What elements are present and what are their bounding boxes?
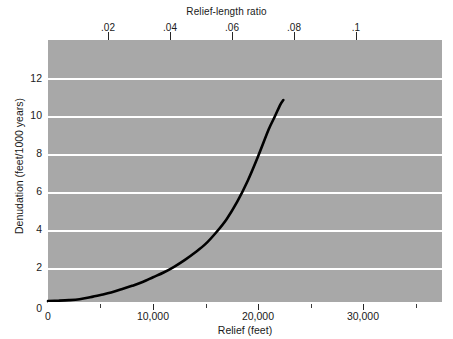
top-tick-0	[108, 32, 109, 40]
plot-area	[48, 40, 442, 303]
x-tick-label-20000: 20,000	[242, 310, 274, 322]
bottom-tick-major-10000	[153, 303, 154, 310]
top-tick-4	[356, 32, 357, 40]
y-tick-label-4: 4	[22, 223, 42, 235]
y-tick-label-12: 12	[22, 72, 42, 84]
x-axis-title: Relief (feet)	[48, 324, 442, 336]
y-tick-label-10: 10	[22, 109, 42, 121]
y-tick-label-6: 6	[22, 185, 42, 197]
y-axis-title: Denudation (feet/1000 years)	[13, 51, 25, 281]
top-tick-1	[170, 32, 171, 40]
x-tick-label-0: 0	[45, 310, 51, 322]
x-tick-label-10000: 10,000	[137, 310, 169, 322]
axis-baseline	[48, 302, 442, 304]
top-tick-3	[294, 32, 295, 40]
denudation-curve	[48, 40, 442, 303]
y-tick-label-8: 8	[22, 147, 42, 159]
bottom-tick-major-30000	[363, 303, 364, 310]
chart-figure: Relief-length ratio .02 .04 .06 .08 .1 1…	[0, 0, 453, 339]
y-tick-label-0: 0	[22, 302, 42, 314]
bottom-tick-major-20000	[258, 303, 259, 310]
top-axis-title: Relief-length ratio	[0, 6, 453, 17]
x-tick-label-30000: 30,000	[347, 310, 379, 322]
top-tick-2	[232, 32, 233, 40]
y-tick-label-2: 2	[22, 261, 42, 273]
